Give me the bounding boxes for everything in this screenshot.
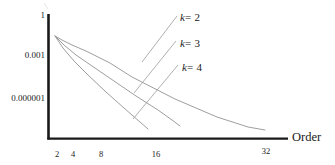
top-axis-artifact-icon [44, 3, 48, 9]
series-line-k2 [55, 36, 265, 130]
x-tick-label-4: 4 [71, 150, 75, 159]
series-label-k2: k= 2 [180, 12, 200, 23]
x-tick-label-8: 8 [99, 150, 103, 159]
y-tick-label-0.000001: 0.000001 [0, 94, 45, 103]
series-label-k2-value: = 2 [185, 11, 200, 23]
series-label-k4: k= 4 [182, 62, 202, 73]
x-tick-label-32: 32 [262, 147, 271, 156]
chart-plot-area [0, 0, 335, 165]
leader-line-k2 [142, 16, 177, 62]
series-label-k3: k= 3 [180, 38, 200, 49]
leader-line-k4 [133, 65, 178, 119]
series-line-k4 [55, 36, 148, 129]
y-tick-label-0.001: 0.001 [8, 51, 45, 60]
x-tick-label-16: 16 [152, 150, 161, 159]
chart-container: 1 0.001 0.000001 2 4 8 16 32 k= 2 k= 3 k… [0, 0, 335, 165]
x-axis-title: Order [292, 131, 321, 144]
y-tick-label-1: 1 [28, 11, 45, 20]
series-label-k4-value: = 4 [187, 61, 202, 73]
series-label-k3-value: = 3 [185, 37, 200, 49]
x-tick-label-2: 2 [55, 150, 59, 159]
leader-line-k3 [134, 41, 176, 93]
series-line-k3 [55, 36, 180, 126]
